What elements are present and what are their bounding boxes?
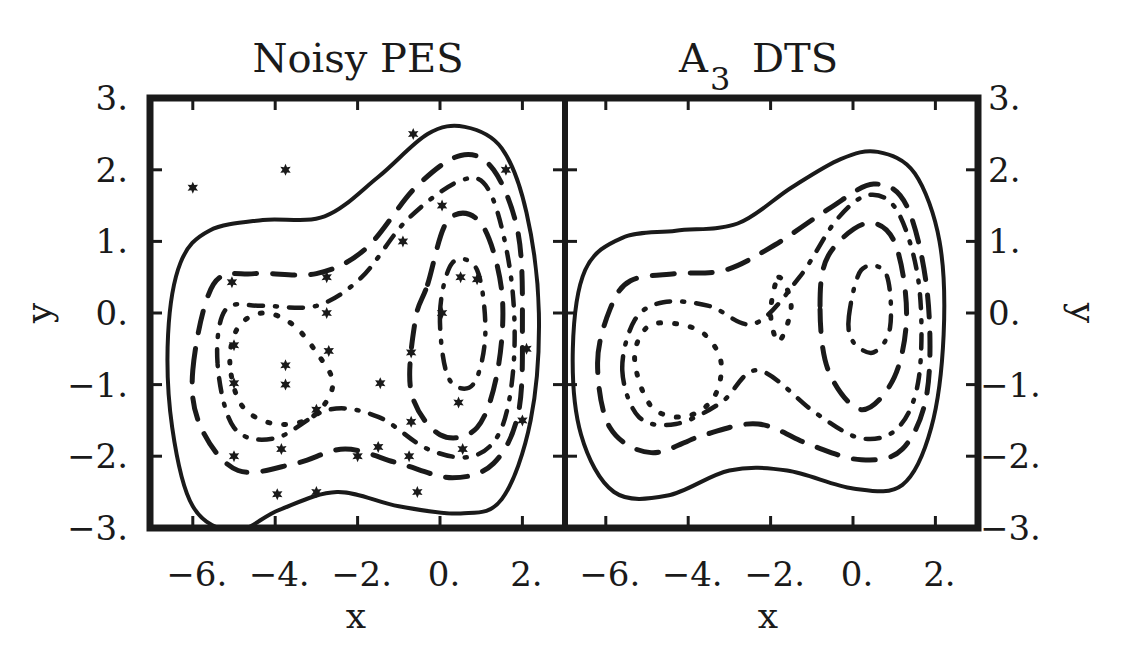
star-marker-icon — [412, 486, 422, 498]
y-tick-label: 1. — [988, 221, 1020, 261]
x-tick-label: −4. — [249, 554, 310, 594]
star-marker-icon — [398, 235, 408, 247]
star-marker-icon — [280, 359, 290, 371]
star-marker-icon — [457, 443, 467, 455]
left-contours — [168, 126, 539, 532]
right-title-rest: DTS — [752, 35, 838, 81]
star-marker-icon — [188, 182, 198, 194]
right-plot-area — [565, 98, 978, 528]
x-tick-labels: −6.−4.−2.0.2.−6.−4.−2.0.2. — [166, 554, 955, 594]
right-title-subscript: 3 — [710, 60, 730, 98]
y-tick-label: −2. — [980, 436, 1041, 476]
right-title-main: A — [678, 35, 709, 81]
x-tick-label: 0. — [428, 554, 460, 594]
x-tick-label: 2. — [510, 554, 542, 594]
contour-long-dash-right-well — [820, 223, 907, 410]
x-tick-label: 2. — [923, 554, 955, 594]
left-panel-title: Noisy PES — [252, 35, 463, 81]
star-marker-icon — [276, 443, 286, 455]
y-tick-label: 2. — [988, 150, 1020, 190]
x-tick-label: 0. — [841, 554, 873, 594]
y-tick-label: 1. — [96, 221, 128, 261]
right-contours — [573, 151, 945, 499]
left-y-axis-label: y — [18, 302, 59, 324]
star-marker-icon — [404, 450, 414, 462]
y-tick-label: −1. — [980, 365, 1041, 405]
star-marker-icon — [455, 271, 465, 283]
star-marker-icon — [280, 164, 290, 176]
star-marker-icon — [437, 200, 447, 212]
star-marker-icon — [406, 346, 416, 358]
x-tick-label: −6. — [166, 554, 227, 594]
star-marker-icon — [280, 379, 290, 391]
star-marker-icon — [324, 345, 334, 357]
star-marker-icon — [322, 307, 332, 319]
star-marker-icon — [406, 416, 416, 428]
y-tick-label: −1. — [67, 365, 128, 405]
y-tick-label: −3. — [980, 508, 1041, 548]
star-marker-icon — [229, 450, 239, 462]
y-tick-label: −3. — [67, 508, 128, 548]
x-tick-label: −2. — [331, 554, 392, 594]
left-y-tick-labels: 3.2.1.0.−1.−2.−3. — [67, 78, 128, 548]
y-tick-label: 0. — [988, 293, 1020, 333]
star-marker-icon — [408, 128, 418, 140]
right-y-axis-label: y — [1063, 302, 1104, 324]
star-marker-icon — [227, 276, 237, 288]
left-plot-area — [150, 98, 565, 531]
x-tick-label: −4. — [662, 554, 723, 594]
x-tick-label: −2. — [744, 554, 805, 594]
y-tick-label: 0. — [96, 293, 128, 333]
star-marker-icon — [453, 397, 463, 409]
contour-dotted — [635, 323, 722, 417]
x-tick-label: −6. — [579, 554, 640, 594]
contour-dash-dot-right-well — [848, 265, 891, 352]
left-scatter-stars — [188, 128, 532, 500]
star-marker-icon — [375, 377, 385, 389]
figure: Noisy PES A 3 DTS 3.2.1.0.−1.−2.−3. 3.2.… — [0, 0, 1125, 665]
star-marker-icon — [373, 441, 383, 453]
left-x-axis-label: x — [346, 595, 366, 636]
right-panel-title: A 3 DTS — [678, 35, 838, 98]
y-tick-label: 3. — [96, 78, 128, 118]
y-tick-label: −2. — [67, 436, 128, 476]
star-marker-icon — [272, 488, 282, 500]
y-tick-label: 2. — [96, 150, 128, 190]
star-marker-icon — [517, 414, 527, 426]
right-y-tick-labels: 3.2.1.0.−1.−2.−3. — [980, 78, 1041, 548]
right-x-axis-label: x — [758, 595, 778, 636]
y-tick-label: 3. — [988, 78, 1020, 118]
